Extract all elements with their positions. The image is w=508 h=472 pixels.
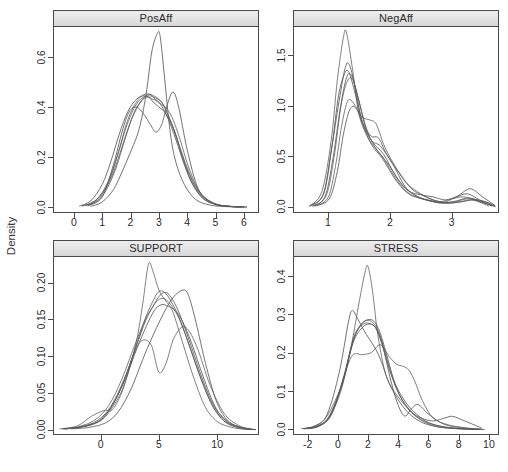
density-curves-support — [54, 257, 258, 434]
x-tick-label: 0 — [324, 438, 352, 450]
x-tick-label: -2 — [294, 438, 322, 450]
x-tick-label: 5 — [202, 216, 230, 228]
density-curve — [308, 323, 480, 429]
plot-area-support — [53, 256, 259, 435]
x-tick-label: 0 — [60, 216, 88, 228]
panel-title-negaff: NegAff — [379, 13, 413, 24]
y-tick-label: 0.20 — [32, 274, 52, 292]
x-tick-label: 10 — [203, 438, 231, 450]
panel-strip-stress: STRESS — [293, 240, 499, 257]
y-tick-label: 0.2 — [272, 344, 292, 362]
density-curve — [66, 305, 256, 430]
density-curve — [66, 263, 253, 430]
density-curves-posaff — [54, 27, 258, 212]
y-tick-label: 0.4 — [272, 267, 292, 285]
y-tick-label: 0.5 — [272, 147, 292, 165]
y-tick-label: 0.10 — [32, 347, 52, 365]
x-tick-label: 2 — [376, 216, 404, 228]
x-tick-label: 5 — [145, 438, 173, 450]
x-tick-label: 3 — [145, 216, 173, 228]
density-curve — [60, 327, 250, 429]
density-curve — [311, 70, 494, 206]
density-curve — [64, 292, 255, 429]
panel-title-support: SUPPORT — [129, 243, 183, 254]
y-tick-label: 0.3 — [272, 305, 292, 323]
density-curves-negaff — [294, 27, 498, 212]
density-curve — [88, 92, 244, 207]
panel-stress: STRESS — [293, 240, 499, 435]
y-tick-label: 0.0 — [272, 420, 292, 438]
x-tick-label: 2 — [117, 216, 145, 228]
y-tick-label: 0.4 — [32, 98, 52, 116]
x-tick-label: 4 — [384, 438, 412, 450]
panel-support: SUPPORT — [53, 240, 259, 435]
plot-area-stress — [293, 256, 499, 435]
plot-area-negaff — [293, 26, 499, 213]
y-tick-label: 0.2 — [32, 148, 52, 166]
y-tick-label: 0.15 — [32, 310, 52, 328]
panel-strip-negaff: NegAff — [293, 10, 499, 27]
density-curves-stress — [294, 257, 498, 434]
x-tick-label: 4 — [173, 216, 201, 228]
panel-title-posaff: PosAff — [140, 13, 173, 24]
x-tick-label: 1 — [88, 216, 116, 228]
y-tick-label: 0.0 — [272, 198, 292, 216]
y-tick-label: 0.05 — [32, 384, 52, 402]
panel-strip-support: SUPPORT — [53, 240, 259, 257]
x-tick-label: 6 — [414, 438, 442, 450]
plot-area-posaff — [53, 26, 259, 213]
panel-negaff: NegAff — [293, 10, 499, 213]
y-tick-label: 0.0 — [32, 198, 52, 216]
figure-y-axis-label: Density — [0, 196, 22, 276]
panel-title-stress: STRESS — [374, 243, 419, 254]
density-curve — [62, 298, 254, 429]
y-tick-label: 0.1 — [272, 382, 292, 400]
x-tick-label: 6 — [230, 216, 258, 228]
x-tick-label: 1 — [314, 216, 342, 228]
x-tick-label: 3 — [438, 216, 466, 228]
x-tick-label: 0 — [87, 438, 115, 450]
density-curve — [63, 291, 254, 430]
density-curve — [71, 290, 254, 430]
x-tick-label: 2 — [354, 438, 382, 450]
panel-strip-posaff: PosAff — [53, 10, 259, 27]
y-tick-label: 1.0 — [272, 97, 292, 115]
panel-posaff: PosAff — [53, 10, 259, 213]
y-tick-label: 0.00 — [32, 421, 52, 439]
y-tick-label: 1.5 — [272, 46, 292, 64]
y-tick-label: 0.6 — [32, 48, 52, 66]
density-curve — [91, 31, 238, 207]
density-plot-figure: Density PosAff NegAff SUPPORT STRESS — [0, 0, 508, 472]
x-tick-label: 8 — [445, 438, 473, 450]
x-tick-label: 10 — [475, 438, 503, 450]
